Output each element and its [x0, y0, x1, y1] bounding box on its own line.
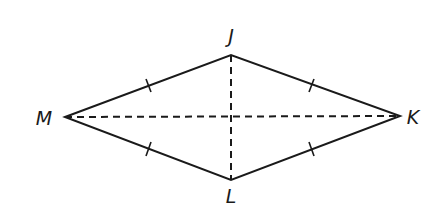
rhombus-diagram: J M K L	[0, 0, 433, 211]
vertex-label-j: J	[224, 25, 234, 47]
vertex-label-l: L	[226, 185, 237, 207]
vertex-label-m: M	[36, 107, 52, 129]
diagonal-mk	[65, 116, 400, 117]
vertex-label-k: K	[407, 106, 421, 128]
